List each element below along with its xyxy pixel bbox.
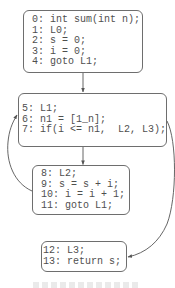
node-exit-block: 12: L3; 13: return s;: [41, 241, 127, 272]
code-line: 4: goto L1;: [32, 57, 142, 68]
code-line: 12: L3;: [43, 246, 126, 257]
code-line: 8: L2;: [41, 169, 129, 180]
code-line: 13: return s;: [43, 257, 126, 268]
code-line: 10: i = i + 1;: [41, 190, 129, 201]
clipped-caption: [33, 282, 141, 288]
control-flow-graph: 0: int sum(int n); 1: L0; 2: s = 0; 3: i…: [0, 0, 175, 288]
node-loop-header-block: 5: L1; 6: n1 = [1_n]; 7: if(i <= n1, L2,…: [18, 93, 167, 147]
code-line: 7: if(i <= n1, L2, L3);: [22, 125, 166, 136]
code-line: 11: goto L1;: [41, 201, 129, 212]
node-loop-body-block: 8: L2; 9: s = s + i; 10: i = i + 1; 11: …: [32, 165, 130, 215]
node-entry-block: 0: int sum(int n); 1: L0; 2: s = 0; 3: i…: [23, 10, 143, 73]
